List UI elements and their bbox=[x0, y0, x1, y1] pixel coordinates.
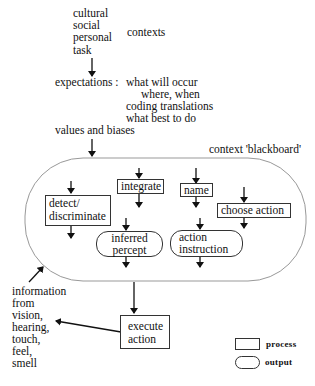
expectation-line-2: where, when bbox=[141, 88, 200, 101]
output-inferred-percept: inferred percept bbox=[96, 231, 163, 257]
detect-line-2: discriminate bbox=[49, 210, 107, 223]
process-execute-action: execute action bbox=[120, 315, 170, 349]
expectation-line-1: what will occur bbox=[126, 76, 198, 89]
info-line-6: feel, bbox=[12, 345, 32, 358]
values-and-biases-label: values and biases bbox=[55, 124, 135, 137]
action-instruction-line-2: instruction bbox=[179, 243, 242, 255]
legend-process-swatch bbox=[235, 338, 260, 350]
output-action-instruction: action instruction bbox=[170, 230, 243, 257]
info-line-7: smell bbox=[12, 357, 37, 370]
context-personal: personal bbox=[73, 31, 112, 44]
action-instruction-line-1: action bbox=[179, 231, 242, 243]
expectations-label: expectations : bbox=[55, 76, 119, 89]
expectation-line-3: coding translations bbox=[126, 100, 213, 113]
process-integrate: integrate bbox=[117, 179, 164, 194]
info-line-4: hearing, bbox=[12, 321, 49, 334]
blackboard-label: context 'blackboard' bbox=[209, 143, 301, 156]
legend-output-swatch bbox=[235, 356, 260, 369]
execute-line-1: execute bbox=[128, 320, 166, 333]
info-line-3: vision, bbox=[12, 309, 43, 322]
detect-line-1: detect/ bbox=[49, 197, 107, 210]
context-social: social bbox=[73, 19, 100, 32]
legend-process-label: process bbox=[266, 339, 296, 349]
info-line-5: touch, bbox=[12, 333, 40, 346]
process-choose-action: choose action bbox=[217, 203, 291, 218]
context-cultural: cultural bbox=[73, 7, 108, 20]
contexts-label: contexts bbox=[127, 26, 165, 39]
expectation-line-4: what best to do bbox=[126, 112, 196, 125]
process-name: name bbox=[180, 183, 213, 197]
context-task: task bbox=[73, 44, 92, 57]
inferred-line-1: inferred bbox=[97, 232, 162, 244]
execute-line-2: action bbox=[128, 333, 166, 346]
info-line-2: from bbox=[12, 297, 34, 310]
legend-output-label: output bbox=[265, 357, 292, 367]
process-detect-discriminate: detect/ discriminate bbox=[45, 195, 111, 226]
info-line-1: information bbox=[12, 285, 66, 298]
inferred-line-2: percept bbox=[97, 244, 162, 256]
